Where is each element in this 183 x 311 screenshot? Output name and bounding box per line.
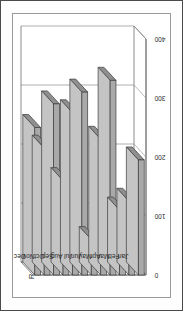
chart-plot-frame: Revenue 400 300 200 100 0 Jan Feb Mar Ap…: [12, 13, 171, 298]
value-tick-200: 200: [155, 154, 181, 161]
value-tick-400: 400: [155, 36, 181, 43]
category-tick-dec: Dec: [3, 253, 25, 260]
value-tick-300: 300: [155, 95, 181, 102]
page-frame: Revenue 400 300 200 100 0 Jan Feb Mar Ap…: [0, 0, 183, 311]
value-tick-100: 100: [155, 213, 181, 220]
rotated-chart-wrapper: Revenue 400 300 200 100 0 Jan Feb Mar Ap…: [5, 5, 178, 306]
value-tick-0: 0: [155, 272, 181, 279]
